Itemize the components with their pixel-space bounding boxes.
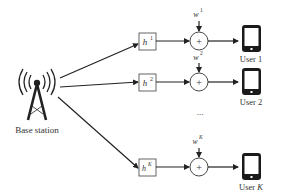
svg-text:K: K <box>198 134 203 140</box>
svg-text:1: 1 <box>200 7 203 13</box>
box-to-adder-links <box>156 41 189 167</box>
adder-K: + <box>190 158 208 176</box>
svg-text:2: 2 <box>150 76 153 82</box>
smartphone-icon <box>242 68 261 95</box>
svg-text:+: + <box>196 36 202 47</box>
channel-h2: h 2 <box>139 74 156 91</box>
antenna-tower-icon <box>19 69 55 120</box>
adder-2: + <box>190 73 208 91</box>
bs-links <box>58 44 138 168</box>
svg-text:h: h <box>142 164 146 173</box>
user-1: User 1 <box>240 25 262 64</box>
svg-text:1: 1 <box>150 35 153 41</box>
svg-text:h: h <box>143 78 148 88</box>
downlink-diagram: Base station h 1 h 2 h K + <box>0 0 282 194</box>
svg-text:+: + <box>196 77 202 88</box>
base-station: Base station <box>15 69 59 135</box>
smartphone-icon <box>242 153 261 180</box>
adder-1: + <box>190 32 208 50</box>
base-station-label: Base station <box>15 125 59 135</box>
adder-to-user-links <box>208 41 238 167</box>
noise-wK: w K <box>192 134 203 157</box>
svg-text:w: w <box>193 53 199 62</box>
user-K-label: User K <box>239 182 264 192</box>
user-2: User 2 <box>240 68 262 107</box>
user-1-label: User 1 <box>240 54 262 64</box>
channel-hK: h K <box>139 159 156 176</box>
user-K: User K <box>239 153 264 192</box>
svg-text:2: 2 <box>200 50 203 56</box>
smartphone-icon <box>242 25 261 52</box>
svg-text:K: K <box>147 161 152 167</box>
svg-text:+: + <box>196 162 202 173</box>
svg-text:h: h <box>143 37 148 47</box>
channel-h1: h 1 <box>139 33 156 50</box>
ellipsis: ... <box>197 107 204 117</box>
noise-w2: w 2 <box>193 50 203 72</box>
user-2-label: User 2 <box>240 97 262 107</box>
noise-w1: w 1 <box>193 7 203 31</box>
svg-text:w: w <box>192 137 197 146</box>
svg-text:w: w <box>193 10 199 19</box>
